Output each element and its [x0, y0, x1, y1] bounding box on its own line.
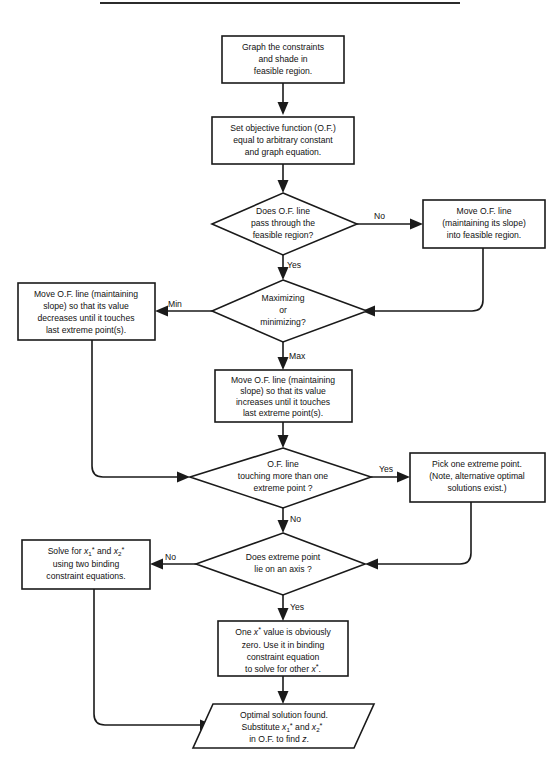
node-move-of-line-into-feasible-line-1: Move O.F. line: [457, 206, 512, 216]
node-touching-more-than-one-line-1: O.F. line: [267, 459, 299, 469]
edge-pickpoint-to-axisdecision: [365, 502, 471, 570]
node-solve-for-x1-x2-line-3: constraint equations.: [46, 571, 125, 581]
edge-axisdecision-yes-to-onexzero: [278, 595, 289, 621]
node-solve-for-x1-x2-line-1: Solve for x1* and x2*: [48, 545, 125, 557]
node-move-of-line-decreases-line-2: slope) so that its value: [43, 301, 129, 311]
edge-label-no-passthrough: No: [374, 211, 385, 221]
edge-setobjective-to-passthrough: [278, 164, 289, 193]
node-move-of-line-increases-line-3: increases until it touches: [236, 397, 330, 407]
node-move-of-line-into-feasible-line-2: (maintaining its slope): [442, 218, 526, 228]
node-move-of-line-into-feasible[interactable]: Move O.F. line (maintaining its slope) i…: [423, 200, 545, 248]
flowchart-canvas: move-of-line-into-feasible --> maximizin…: [0, 0, 560, 780]
node-pick-one-extreme-point[interactable]: Pick one extreme point. (Note, alternati…: [410, 453, 545, 502]
flowchart-page: move-of-line-into-feasible --> maximizin…: [0, 0, 560, 780]
node-one-x-value-zero-line-1: One x* value is obviously: [235, 625, 331, 637]
edge-maxmin-max-to-increases: [278, 342, 289, 370]
node-pick-one-extreme-point-line-1: Pick one extreme point.: [432, 459, 522, 469]
node-set-objective-function-line-2: equal to arbitrary constant: [233, 135, 333, 145]
node-set-objective-function[interactable]: Set objective function (O.F.) equal to a…: [212, 117, 354, 164]
node-extreme-point-on-axis-line-2: lie on an axis ?: [254, 564, 312, 574]
edge-passthrough-no-to-movefeasible: [357, 219, 423, 230]
node-move-of-line-increases[interactable]: Move O.F. line (maintaining slope) so th…: [215, 370, 352, 422]
node-move-of-line-increases-line-2: slope) so that its value: [240, 386, 326, 396]
edge-decreases-to-touching: [92, 340, 190, 483]
edge-label-min-maxmin: Min: [168, 299, 182, 309]
node-graph-constraints[interactable]: Graph the constraints and shade in feasi…: [222, 36, 344, 83]
node-does-of-line-pass-line-1: Does O.F. line: [256, 206, 310, 216]
node-extreme-point-on-axis[interactable]: Does extreme point lie on an axis ?: [196, 533, 365, 595]
node-touching-more-than-one-line-2: touching more than one: [238, 471, 329, 481]
edge-label-no-touching: No: [290, 514, 301, 524]
edge-solve-to-optimal: [94, 589, 213, 731]
edge-label-yes-axis: Yes: [290, 602, 304, 612]
node-solve-for-x1-x2[interactable]: Solve for x1* and x2* using two binding …: [22, 540, 150, 589]
node-maximizing-or-minimizing[interactable]: Maximizing or minimizing?: [212, 280, 367, 342]
node-does-of-line-pass[interactable]: Does O.F. line pass through the feasible…: [212, 193, 357, 255]
node-does-of-line-pass-line-3: feasible region?: [253, 230, 314, 240]
node-set-objective-function-line-3: and graph equation.: [245, 147, 321, 157]
edge-label-no-axis: No: [165, 552, 176, 562]
node-move-of-line-decreases-line-4: last extreme point(s).: [46, 325, 126, 335]
node-maximizing-or-minimizing-line-3: minimizing?: [260, 317, 306, 327]
node-optimal-solution-found-line-1: Optimal solution found.: [240, 710, 328, 720]
node-pick-one-extreme-point-line-3: solutions exist.): [447, 483, 506, 493]
node-move-of-line-decreases-line-1: Move O.F. line (maintaining: [34, 289, 138, 299]
node-graph-constraints-line-1: Graph the constraints: [242, 42, 324, 52]
node-move-of-line-increases-line-4: last extreme point(s).: [243, 408, 323, 418]
node-touching-more-than-one-line-3: extreme point ?: [253, 483, 312, 493]
node-move-of-line-decreases[interactable]: Move O.F. line (maintaining slope) so th…: [18, 283, 155, 340]
node-one-x-value-zero-line-4: to solve for other x*.: [245, 662, 321, 674]
node-one-x-value-zero[interactable]: One x* value is obviously zero. Use it i…: [218, 621, 348, 676]
edge-onexzero-to-optimal: [278, 676, 289, 704]
edge-label-max-maxmin: Max: [289, 351, 306, 361]
node-graph-constraints-line-2: and shade in: [258, 54, 307, 64]
edge-label-yes-touching: Yes: [379, 464, 393, 474]
node-optimal-solution-found-line-2: Substitute x1* and x2*: [241, 721, 322, 733]
node-one-x-value-zero-line-2: zero. Use it in binding: [242, 640, 325, 650]
edge-label-yes-passthrough: Yes: [287, 260, 301, 270]
edge-touching-no-to-axisdecision: [278, 508, 289, 533]
node-optimal-solution-found[interactable]: Optimal solution found. Substitute x1* a…: [193, 704, 374, 748]
node-move-of-line-decreases-line-3: decreases until it touches: [38, 313, 135, 323]
node-move-of-line-increases-line-1: Move O.F. line (maintaining: [231, 375, 335, 385]
node-set-objective-function-line-1: Set objective function (O.F.): [230, 123, 336, 133]
edge-movefeasible-to-maxmin: [362, 248, 483, 317]
node-touching-more-than-one[interactable]: O.F. line touching more than one extreme…: [190, 448, 371, 508]
edge-graph-to-setobjective: [278, 83, 289, 115]
node-maximizing-or-minimizing-line-2: or: [279, 305, 287, 315]
node-graph-constraints-line-3: feasible region.: [254, 66, 312, 76]
node-maximizing-or-minimizing-line-1: Maximizing: [262, 293, 305, 303]
edge-increases-to-touching: [278, 422, 289, 448]
node-move-of-line-into-feasible-line-3: into feasible region.: [447, 230, 522, 240]
node-does-of-line-pass-line-2: pass through the: [251, 218, 315, 228]
node-pick-one-extreme-point-line-2: (Note, alternative optimal: [429, 471, 525, 481]
node-extreme-point-on-axis-line-1: Does extreme point: [246, 552, 321, 562]
node-one-x-value-zero-line-3: constraint equation: [247, 652, 320, 662]
node-optimal-solution-found-line-3: in O.F. to find z.: [249, 734, 309, 744]
edge-maxmin-min-to-decreases: [155, 306, 212, 317]
node-solve-for-x1-x2-line-2: using two binding: [53, 559, 120, 569]
